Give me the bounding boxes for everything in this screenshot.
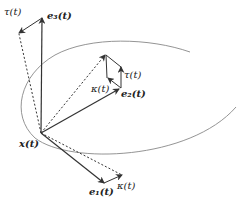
parallelogram-top bbox=[106, 55, 121, 67]
label-tau-top: τ(t) bbox=[4, 7, 21, 17]
label-position: x(t) bbox=[19, 139, 39, 149]
diagram-canvas bbox=[0, 0, 247, 207]
kappa-mid-vector bbox=[108, 78, 121, 88]
e3-vector bbox=[41, 18, 42, 133]
tau-top-vector bbox=[19, 18, 42, 33]
dotted-derivative-e2 bbox=[41, 55, 105, 133]
label-e1: e₁(t) bbox=[89, 187, 114, 197]
frenet-frame-diagram: τ(t) e₃(t) τ(t) κ(t) e₂(t) x(t) κ(t) e₁(… bbox=[0, 0, 247, 207]
label-tau-mid: τ(t) bbox=[124, 70, 141, 80]
label-kappa-bottom: κ(t) bbox=[117, 181, 135, 191]
parallelogram-left bbox=[106, 55, 107, 78]
e2-vector bbox=[41, 89, 119, 133]
e1-vector bbox=[41, 133, 104, 183]
label-kappa-mid: κ(t) bbox=[91, 84, 109, 94]
label-e3: e₃(t) bbox=[47, 11, 72, 21]
label-e2: e₂(t) bbox=[121, 89, 146, 99]
